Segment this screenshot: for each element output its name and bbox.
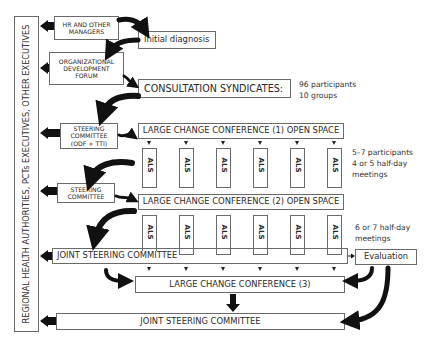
flow-arrows (0, 0, 432, 349)
left-arrow-icons (40, 20, 60, 327)
